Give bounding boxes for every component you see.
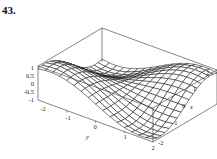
y-tick: -1 [65, 114, 70, 121]
y-axis-label: y [85, 133, 89, 140]
x-axis-label: x [189, 103, 193, 110]
y-tick: 1 [123, 133, 126, 140]
x-tick: -1 [172, 119, 177, 126]
x-tick: 1 [193, 85, 196, 92]
surface-plot: 1 0.5 0 -0.5 -1 -2 -1 0 1 2 y 2 1 0 -1 -… [0, 0, 217, 159]
z-tick: 0.5 [26, 72, 34, 79]
x-tick: 0 [182, 102, 185, 109]
z-tick: 0 [31, 80, 34, 87]
z-axis: 1 0.5 0 -0.5 -1 [24, 64, 34, 103]
z-tick: -1 [29, 96, 34, 103]
y-tick: 2 [151, 144, 154, 151]
z-tick: -0.5 [24, 88, 34, 95]
y-tick: -2 [40, 105, 45, 112]
surface-mesh [38, 59, 217, 139]
y-tick: 0 [93, 123, 96, 130]
z-tick: 1 [31, 64, 34, 71]
x-tick: -2 [158, 139, 163, 146]
